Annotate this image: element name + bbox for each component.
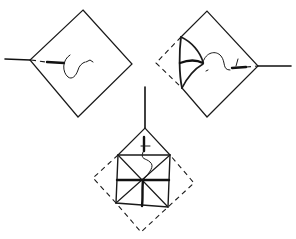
step-2-diamond-outline [181,11,258,117]
step-1-curl-arrow-icon [64,55,85,78]
step-2-thick-segment [232,67,246,68]
step-2-diagram [156,11,291,117]
step-2-lower-arc [182,64,203,88]
step-3-vertical-crease [142,180,143,206]
step-1-arrow-tip-icon [86,60,93,62]
step-2-upper-arc [181,37,203,62]
step-1-dashed-line [31,60,46,62]
step-1-diagram [5,10,132,117]
step-2-middle-crease [180,61,203,63]
step-2-original-corner-dashed [156,37,182,88]
step-3-curl-arrow-icon [142,152,152,180]
folding-diagram [0,0,296,239]
step-3-diagram [93,87,194,232]
step-1-stem [5,59,30,60]
step-1-thick-segment [47,62,64,63]
step-1-diamond [30,10,132,117]
step-2-curl-arrow-icon [203,53,230,71]
step-2-dashed-line [246,66,258,67]
step-2-arrow-tick [236,59,238,66]
